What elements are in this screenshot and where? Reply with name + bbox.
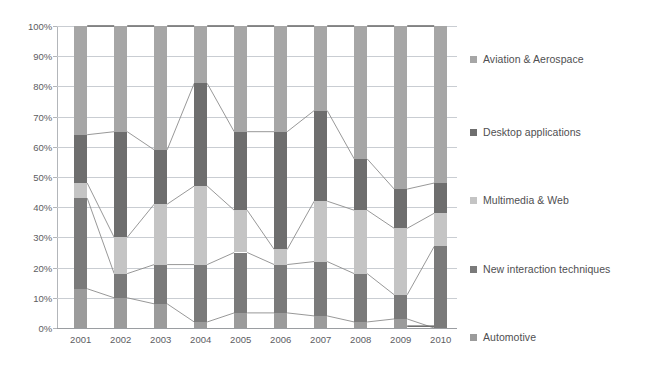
bar-segment[interactable] — [154, 26, 167, 150]
legend-item[interactable]: Automotive — [470, 331, 536, 343]
bar-2007[interactable] — [314, 26, 327, 328]
bar-segment[interactable] — [394, 26, 407, 189]
stacked-bar-chart: 0%10%20%30%40%50%60%70%80%90%100% 200120… — [0, 0, 672, 368]
bar-segment[interactable] — [114, 237, 127, 273]
legend-swatch-icon — [470, 266, 477, 273]
bar-segment[interactable] — [154, 204, 167, 264]
connector-line — [127, 265, 154, 274]
bar-segment[interactable] — [154, 150, 167, 204]
connector-line — [327, 316, 354, 322]
bar-2004[interactable] — [194, 26, 207, 328]
bar-segment[interactable] — [194, 186, 207, 265]
x-axis-tick-label: 2009 — [390, 334, 411, 345]
bar-segment[interactable] — [114, 298, 127, 328]
legend-label: New interaction techniques — [483, 263, 610, 275]
connector-line — [367, 159, 394, 189]
y-tick-80 — [53, 86, 57, 87]
legend-swatch-icon — [470, 56, 477, 63]
bar-segment[interactable] — [274, 249, 287, 264]
bar-2001[interactable] — [74, 26, 87, 328]
connector-line — [407, 183, 434, 189]
x-axis-tick-label: 2001 — [70, 334, 91, 345]
bar-2010[interactable] — [434, 26, 447, 328]
connector-line — [207, 313, 234, 322]
bar-segment[interactable] — [114, 274, 127, 298]
bar-segment[interactable] — [234, 313, 247, 328]
connector-line — [247, 210, 274, 249]
bar-segment[interactable] — [314, 111, 327, 202]
bar-segment[interactable] — [234, 210, 247, 252]
bar-segment[interactable] — [314, 26, 327, 111]
bar-segment[interactable] — [234, 26, 247, 132]
bar-segment[interactable] — [354, 322, 367, 328]
bar-segment[interactable] — [74, 198, 87, 289]
bar-segment[interactable] — [354, 274, 367, 322]
x-axis-tick-label: 2010 — [430, 334, 451, 345]
y-axis-labels: 0%10%20%30%40%50%60%70%80%90%100% — [0, 26, 52, 328]
y-axis-tick-label: 70% — [6, 111, 52, 122]
bar-segment[interactable] — [314, 316, 327, 328]
bar-segment[interactable] — [194, 265, 207, 322]
bar-segment[interactable] — [354, 210, 367, 273]
connector-line — [367, 319, 394, 322]
connector-line — [407, 319, 434, 328]
x-axis-labels: 2001200220032004200520062007200820092010 — [57, 334, 457, 354]
legend-swatch-icon — [470, 129, 477, 136]
y-axis-tick-label: 30% — [6, 232, 52, 243]
bar-2009[interactable] — [394, 26, 407, 328]
bar-segment[interactable] — [434, 183, 447, 213]
legend-item[interactable]: Multimedia & Web — [470, 194, 569, 206]
y-axis-tick-label: 10% — [6, 292, 52, 303]
y-axis-tick-label: 60% — [6, 141, 52, 152]
chart-legend: Aviation & AerospaceDesktop applications… — [470, 26, 670, 336]
bar-segment[interactable] — [434, 26, 447, 183]
bar-2008[interactable] — [354, 26, 367, 328]
bar-segment[interactable] — [394, 295, 407, 319]
bar-segment[interactable] — [274, 132, 287, 250]
bar-segment[interactable] — [434, 213, 447, 246]
connector-line — [287, 262, 314, 265]
bar-segment[interactable] — [274, 313, 287, 328]
bar-segment[interactable] — [74, 289, 87, 328]
bar-segment[interactable] — [194, 26, 207, 83]
bar-segment[interactable] — [314, 262, 327, 316]
connector-line — [287, 201, 314, 249]
connector-line — [87, 289, 114, 298]
connector-line — [167, 186, 194, 204]
x-axis-tick-label: 2003 — [150, 334, 171, 345]
connector-line — [247, 253, 274, 265]
x-axis-tick-label: 2006 — [270, 334, 291, 345]
bar-segment[interactable] — [394, 319, 407, 328]
bar-2005[interactable] — [234, 26, 247, 328]
bar-segment[interactable] — [434, 246, 447, 328]
bar-segment[interactable] — [194, 322, 207, 328]
bar-segment[interactable] — [74, 183, 87, 198]
bar-segment[interactable] — [74, 135, 87, 183]
y-tick-10 — [53, 298, 57, 299]
bar-segment[interactable] — [234, 132, 247, 211]
bar-segment[interactable] — [154, 304, 167, 328]
bar-2002[interactable] — [114, 26, 127, 328]
bar-segment[interactable] — [274, 26, 287, 132]
bar-segment[interactable] — [394, 228, 407, 294]
legend-item[interactable]: Aviation & Aerospace — [470, 53, 584, 65]
x-axis-tick-label: 2007 — [310, 334, 331, 345]
bar-segment[interactable] — [234, 253, 247, 313]
y-tick-90 — [53, 56, 57, 57]
bar-segment[interactable] — [114, 132, 127, 238]
y-tick-30 — [53, 237, 57, 238]
bar-segment[interactable] — [274, 265, 287, 313]
bar-segment[interactable] — [394, 189, 407, 228]
bar-2003[interactable] — [154, 26, 167, 328]
bar-segment[interactable] — [194, 83, 207, 186]
bar-segment[interactable] — [354, 26, 367, 159]
legend-label: Automotive — [483, 331, 536, 343]
legend-item[interactable]: New interaction techniques — [470, 263, 610, 275]
legend-item[interactable]: Desktop applications — [470, 126, 581, 138]
bar-segment[interactable] — [154, 265, 167, 304]
bar-segment[interactable] — [74, 26, 87, 135]
bar-segment[interactable] — [314, 201, 327, 261]
bar-segment[interactable] — [114, 26, 127, 132]
bar-2006[interactable] — [274, 26, 287, 328]
bar-segment[interactable] — [354, 159, 367, 210]
